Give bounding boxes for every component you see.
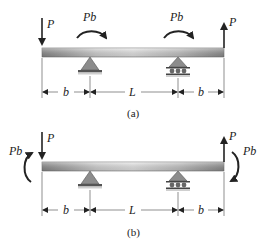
diagram-b: P Pb P Pb — [8, 129, 256, 239]
dimension-label-L: L — [128, 85, 136, 99]
moment-label-right: Pb — [169, 10, 183, 24]
counterclockwise-moment-icon — [25, 153, 32, 182]
dimension-label-b-right: b — [198, 85, 204, 99]
caption-b: (b) — [127, 226, 140, 239]
pin-support-icon — [78, 57, 102, 75]
dimension-label-b-right: b — [198, 203, 204, 217]
clockwise-moment-icon — [164, 31, 193, 38]
force-label-left: P — [46, 131, 55, 145]
clockwise-moment-icon — [77, 31, 106, 38]
roller-support-icon — [166, 171, 190, 191]
beam-a — [42, 48, 224, 57]
pin-support-icon — [78, 171, 102, 189]
moment-label-right-end: Pb — [242, 144, 256, 158]
beam-b — [42, 162, 224, 171]
dimension-label-b-left: b — [63, 203, 69, 217]
beam-diagram-canvas: P Pb Pb P — [0, 0, 269, 242]
dimension-label-b-left: b — [63, 85, 69, 99]
moment-label-left-end: Pb — [8, 144, 22, 158]
dimension-label-L: L — [128, 203, 136, 217]
force-label-left: P — [46, 17, 55, 31]
moment-label-left: Pb — [82, 10, 96, 24]
caption-a: (a) — [127, 107, 140, 120]
roller-support-icon — [166, 57, 190, 77]
clockwise-moment-icon — [231, 152, 238, 181]
diagram-a: P Pb Pb P — [42, 10, 237, 120]
force-label-right: P — [228, 15, 237, 29]
force-label-right: P — [228, 129, 237, 143]
